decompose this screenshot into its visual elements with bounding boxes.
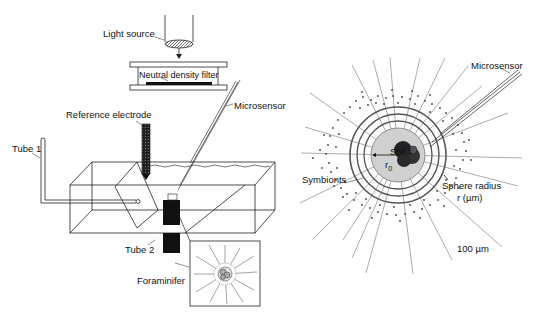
label-r0: r0 xyxy=(385,160,392,172)
label-shell: Shell xyxy=(390,147,411,157)
label-tube-2: Tube 2 xyxy=(125,245,154,255)
diagram-canvas xyxy=(0,0,536,316)
reference-electrode xyxy=(136,121,150,180)
label-reference-electrode: Reference electrode xyxy=(66,110,152,120)
label-light-source: Light source xyxy=(103,29,155,39)
label-foraminifer: Foraminifer xyxy=(137,276,185,286)
label-symbionts: Symbionts xyxy=(302,175,346,185)
microsensor-right xyxy=(430,68,522,147)
microsensor-left xyxy=(178,80,240,190)
label-microsensor-right: Microsensor xyxy=(471,61,523,71)
light-source xyxy=(155,15,193,59)
symbiont-sphere xyxy=(300,57,522,274)
label-microsensor-left: Microsensor xyxy=(234,101,286,111)
r0-subscript: 0 xyxy=(388,165,392,172)
label-scale: 100 µm xyxy=(457,244,489,254)
tube-1 xyxy=(32,138,140,204)
label-neutral-density-filter: Neutral density filter xyxy=(139,71,219,80)
label-tube-1: Tube 1 xyxy=(12,144,41,154)
label-sphere-radius-unit: r (µm) xyxy=(457,193,483,203)
label-sphere-radius: Sphere radius xyxy=(442,181,501,191)
